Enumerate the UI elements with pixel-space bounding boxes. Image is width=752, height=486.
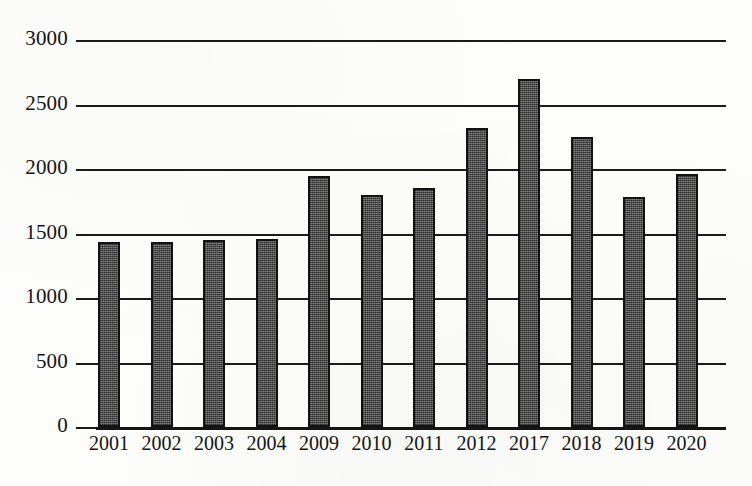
x-axis-tick-label: 2020 — [652, 432, 722, 455]
bar[interactable] — [361, 195, 383, 427]
bar-slot — [308, 40, 361, 427]
y-tick-mark-2500 — [76, 105, 96, 107]
bar[interactable] — [518, 79, 540, 427]
plot-area — [96, 40, 726, 427]
bar-slot — [151, 40, 204, 427]
bar[interactable] — [308, 176, 330, 427]
bar-slot — [466, 40, 519, 427]
y-tick-mark-1000 — [76, 298, 96, 300]
bar[interactable] — [466, 128, 488, 427]
y-axis-tick-label: 1000 — [0, 284, 68, 309]
bar-slot — [361, 40, 414, 427]
y-axis-tick-label: 2500 — [0, 91, 68, 116]
y-axis-tick-label: 500 — [0, 349, 68, 374]
axis-baseline — [96, 427, 726, 430]
bar[interactable] — [571, 137, 593, 427]
bar-slot — [571, 40, 624, 427]
bar-slot — [623, 40, 676, 427]
y-tick-mark-500 — [76, 363, 96, 365]
chart-page: 050010001500200025003000 200120022003200… — [0, 0, 752, 486]
y-tick-mark-1500 — [76, 234, 96, 236]
bar[interactable] — [623, 197, 645, 427]
bar-slot — [413, 40, 466, 427]
bar-slot — [518, 40, 571, 427]
y-tick-mark-0 — [76, 427, 96, 429]
bar[interactable] — [676, 174, 698, 427]
y-axis-tick-label: 2000 — [0, 155, 68, 180]
bars-group — [96, 40, 726, 427]
y-tick-mark-2000 — [76, 169, 96, 171]
bar[interactable] — [203, 240, 225, 427]
y-axis-tick-label: 0 — [0, 413, 68, 438]
y-axis-tick-label: 1500 — [0, 220, 68, 245]
bar[interactable] — [151, 242, 173, 427]
bar[interactable] — [413, 188, 435, 427]
y-axis-tick-label: 3000 — [0, 26, 68, 51]
y-tick-mark-3000 — [76, 40, 96, 42]
bar-slot — [98, 40, 151, 427]
bar-slot — [256, 40, 309, 427]
bar[interactable] — [98, 242, 120, 427]
bar[interactable] — [256, 239, 278, 427]
bar-slot — [203, 40, 256, 427]
bar-slot — [676, 40, 729, 427]
